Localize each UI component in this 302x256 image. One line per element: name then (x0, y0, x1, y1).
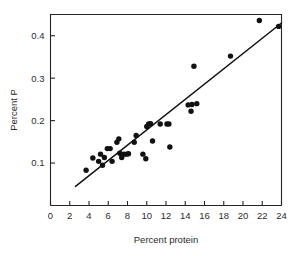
data-point (83, 168, 88, 173)
data-point (140, 151, 145, 156)
data-point (148, 121, 153, 126)
x-axis-tick-labels: 024681012141618202224 (48, 210, 287, 221)
data-point (191, 64, 196, 69)
x-tick-label: 14 (180, 210, 191, 221)
data-point (133, 133, 138, 138)
data-point (166, 121, 171, 126)
data-point (167, 144, 172, 149)
plot-frame (51, 15, 282, 206)
y-tick-label: 0.3 (31, 73, 44, 84)
x-tick-label: 0 (48, 210, 53, 221)
x-tick-label: 24 (276, 210, 287, 221)
y-tick-label: 0.4 (31, 30, 44, 41)
data-point (116, 136, 121, 141)
scatter-plot-figure: 024681012141618202224 0.10.20.30.4 Perce… (0, 0, 302, 256)
x-tick-label: 6 (106, 210, 111, 221)
data-point (109, 159, 114, 164)
x-tick-label: 16 (199, 210, 210, 221)
data-point (102, 155, 107, 160)
data-point (188, 109, 193, 114)
data-point (257, 18, 262, 23)
fit-line (76, 23, 282, 186)
y-tick-label: 0.2 (31, 115, 44, 126)
data-point (158, 121, 163, 126)
x-tick-label: 4 (86, 210, 91, 221)
x-axis-ticks (51, 201, 282, 206)
x-axis-title: Percent protein (134, 234, 198, 245)
chart-canvas: 024681012141618202224 0.10.20.30.4 Perce… (0, 0, 302, 256)
data-point (194, 101, 199, 106)
y-tick-label: 0.1 (31, 157, 44, 168)
regression-line (76, 23, 282, 186)
data-point (96, 159, 101, 164)
x-tick-label: 8 (125, 210, 130, 221)
data-point (228, 53, 233, 58)
x-tick-label: 18 (218, 210, 229, 221)
data-point (276, 24, 281, 29)
data-points (83, 18, 281, 173)
x-tick-label: 22 (257, 210, 268, 221)
data-point (90, 155, 95, 160)
data-point (143, 156, 148, 161)
data-point (107, 146, 112, 151)
x-tick-label: 12 (161, 210, 172, 221)
data-point (100, 162, 105, 167)
data-point (189, 102, 194, 107)
y-axis-title: Percent P (8, 89, 19, 131)
x-tick-label: 2 (67, 210, 72, 221)
data-point (150, 138, 155, 143)
data-point (126, 151, 131, 156)
data-point (132, 140, 137, 145)
y-axis-tick-labels: 0.10.20.30.4 (31, 30, 44, 168)
x-tick-label: 20 (238, 210, 249, 221)
x-tick-label: 10 (141, 210, 152, 221)
y-axis-ticks (51, 36, 56, 163)
